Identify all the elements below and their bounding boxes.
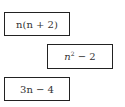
remainder: − 2 bbox=[75, 51, 96, 62]
expression-box-2: n2 − 2 bbox=[47, 44, 113, 69]
expression-text: 3n − 4 bbox=[20, 84, 54, 95]
expression-text: n(n + 2) bbox=[16, 19, 58, 30]
expression-box-1: n(n + 2) bbox=[4, 12, 70, 36]
expression-text: n2 − 2 bbox=[64, 51, 95, 62]
expression-box-3: 3n − 4 bbox=[4, 77, 70, 101]
